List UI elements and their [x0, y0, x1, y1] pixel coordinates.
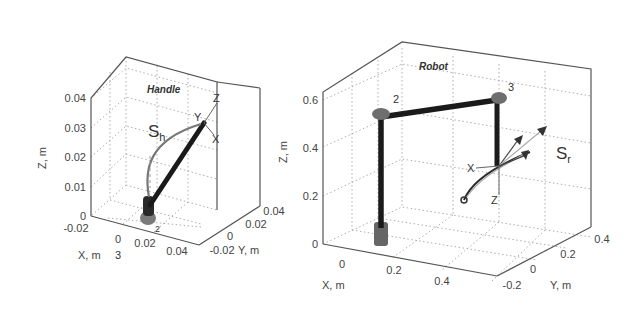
robot-curve-label: Sr	[556, 144, 571, 165]
robot-z-label: Z, m	[277, 141, 289, 163]
handle-frame-y-label: Y	[194, 111, 202, 123]
handle-joint2-label: 2	[155, 224, 160, 234]
robot-grid	[323, 48, 591, 281]
svg-text:0: 0	[339, 258, 345, 270]
svg-text:-0.2: -0.2	[503, 279, 522, 291]
svg-text:0.03: 0.03	[65, 122, 86, 134]
handle-z-label: Z, m	[36, 147, 48, 169]
svg-text:0: 0	[115, 233, 121, 245]
robot-joint-2	[372, 108, 390, 120]
svg-text:0.01: 0.01	[65, 181, 86, 193]
svg-text:0.02: 0.02	[134, 237, 155, 249]
robot-title: Robot	[419, 61, 449, 72]
handle-frame-z-label: Z	[213, 92, 220, 104]
svg-text:0.04: 0.04	[65, 92, 86, 104]
svg-text:0.2: 0.2	[386, 264, 401, 276]
handle-y-label: Y, m	[238, 244, 259, 256]
robot-joint2-label: 2	[393, 93, 399, 105]
svg-text:0: 0	[227, 230, 233, 242]
robot-axes-box	[323, 42, 591, 276]
handle-x-label: X, m	[78, 249, 101, 261]
svg-text:-0.02: -0.02	[209, 244, 234, 256]
handle-z-ticks: 0 0.01 0.02 0.03 0.04	[65, 92, 86, 222]
handle-frame-x-label: X	[212, 133, 220, 145]
robot-x-ticks: 0 0.2 0.4	[339, 258, 450, 287]
svg-text:-0.02: -0.02	[63, 222, 88, 234]
robot-geometry	[372, 92, 547, 246]
svg-text:0.04: 0.04	[263, 205, 284, 217]
handle-plot: 0 0.01 0.02 0.03 0.04 Z, m -0.02 0 0.02 …	[36, 57, 285, 261]
handle-joint3-label: 3	[115, 249, 121, 261]
handle-curve-label: Sh	[148, 122, 165, 143]
svg-text:0: 0	[530, 263, 536, 275]
svg-text:0: 0	[80, 210, 86, 222]
figure: 0 0.01 0.02 0.03 0.04 Z, m -0.02 0 0.02 …	[0, 0, 631, 311]
svg-text:0.2: 0.2	[560, 248, 575, 260]
svg-text:0.4: 0.4	[303, 142, 318, 154]
svg-text:0.2: 0.2	[303, 190, 318, 202]
robot-x-label: X, m	[322, 279, 345, 291]
robot-plot: 0 0.2 0.4 0.6 Z, m 0 0.2 0.4 X, m -0.2 0…	[277, 42, 610, 291]
svg-text:0.02: 0.02	[65, 151, 86, 163]
svg-text:0.4: 0.4	[594, 233, 609, 245]
svg-text:0.02: 0.02	[245, 218, 266, 230]
robot-frame-x-label: X	[467, 162, 475, 174]
robot-frame-z-label: Z	[491, 194, 498, 206]
robot-joint3-label: 3	[508, 81, 514, 93]
handle-title: Handle	[147, 84, 181, 95]
handle-frame-z-axis	[204, 103, 217, 123]
robot-y-label: Y, m	[550, 279, 571, 291]
svg-text:0.6: 0.6	[303, 94, 318, 106]
robot-joint-3	[491, 92, 507, 104]
svg-text:0.4: 0.4	[434, 275, 449, 287]
robot-frame-arrow-2	[499, 131, 541, 166]
robot-z-ticks: 0 0.2 0.4 0.6	[303, 94, 318, 250]
svg-text:0: 0	[312, 238, 318, 250]
svg-text:0.04: 0.04	[166, 245, 187, 257]
